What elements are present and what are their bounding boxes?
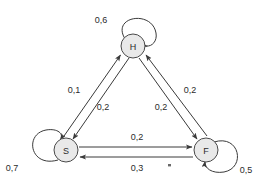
- self-loop-s-label: 0,7: [6, 163, 19, 173]
- edge-f-to-h-label: 0,2: [184, 85, 197, 95]
- scan-artifact-dot: [168, 164, 171, 166]
- edge-s-to-f-label: 0,2: [131, 132, 144, 142]
- self-loop-h-label: 0,6: [95, 15, 108, 25]
- node-f[interactable]: F: [194, 138, 218, 162]
- edge-h-to-f: [139, 58, 197, 139]
- state-transition-diagram: 0,6 0,7 0,5 0,1 0,2 0,2 0,2: [0, 0, 269, 187]
- diagram-canvas: 0,6 0,7 0,5 0,1 0,2 0,2 0,2: [0, 0, 269, 187]
- self-loop-f-label: 0,5: [240, 165, 253, 175]
- edge-h-to-s: [73, 58, 129, 139]
- edge-h-to-f-label: 0,2: [155, 102, 168, 112]
- edge-s-to-h-label: 0,1: [68, 85, 81, 95]
- edge-s-to-h: [64, 55, 121, 136]
- node-h[interactable]: H: [121, 34, 145, 58]
- node-s[interactable]: S: [54, 138, 78, 162]
- edge-f-to-s-label: 0,3: [131, 163, 144, 173]
- edge-h-to-s-label: 0,2: [97, 102, 110, 112]
- node-s-label: S: [63, 146, 69, 156]
- edge-f-to-h: [146, 55, 207, 136]
- node-h-label: H: [130, 42, 137, 52]
- node-f-label: F: [203, 146, 209, 156]
